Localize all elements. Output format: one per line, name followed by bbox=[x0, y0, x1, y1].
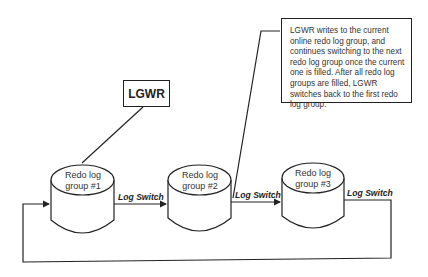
lgwr-process-box: LGWR bbox=[123, 80, 170, 107]
note-callout-line bbox=[233, 31, 280, 198]
note-box: LGWR writes to the current online redo l… bbox=[281, 18, 412, 103]
group-1-label: Redo log group #1 bbox=[53, 170, 113, 192]
switch-label-2: Log Switch bbox=[235, 190, 281, 200]
note-text: LGWR writes to the current online redo l… bbox=[290, 26, 404, 109]
switch-label-1: Log Switch bbox=[118, 192, 164, 202]
lgwr-to-group1-line bbox=[82, 107, 143, 163]
lgwr-label: LGWR bbox=[128, 87, 165, 101]
switch-label-3: Log Switch bbox=[347, 188, 393, 198]
group-3-label: Redo log group #3 bbox=[283, 168, 343, 190]
group-2-label: Redo log group #2 bbox=[170, 170, 230, 192]
